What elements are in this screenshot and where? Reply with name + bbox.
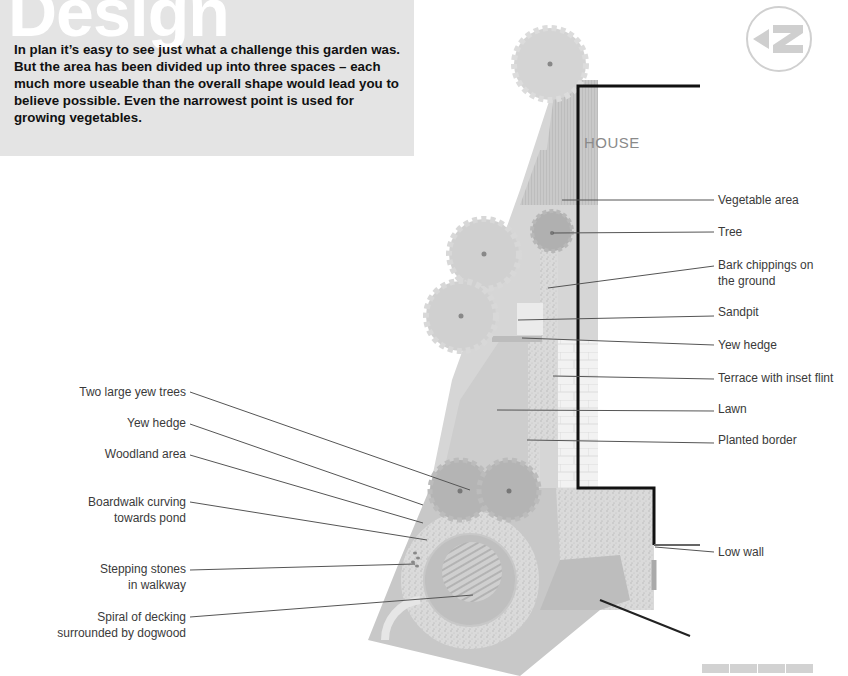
label-stepping-stones-line2: in walkway: [100, 577, 186, 593]
label-boardwalk: Boardwalk curving towards pond: [88, 494, 186, 526]
label-boardwalk-line2: towards pond: [88, 510, 186, 526]
label-stepping-stones: Stepping stones in walkway: [100, 561, 186, 593]
north-arrow-icon: [745, 5, 813, 73]
label-bark-chippings: Bark chippings on the ground: [718, 257, 813, 289]
label-decking: Spiral of decking surrounded by dogwood: [57, 609, 186, 641]
label-planted-border: Planted border: [718, 432, 797, 448]
label-tree: Tree: [718, 224, 742, 240]
label-yew-trees: Two large yew trees: [79, 384, 186, 400]
scale-bar-segment: [730, 664, 757, 673]
label-boardwalk-line1: Boardwalk curving: [88, 494, 186, 510]
house-label: HOUSE: [584, 134, 640, 151]
scale-bar-segment: [786, 664, 813, 673]
label-stepping-stones-line1: Stepping stones: [100, 561, 186, 577]
label-bark-chippings-line1: Bark chippings on: [718, 257, 813, 273]
label-low-wall: Low wall: [718, 544, 764, 560]
tree-top-icon: [514, 28, 586, 100]
scale-bar-segment: [758, 664, 785, 673]
label-decking-line2: surrounded by dogwood: [57, 625, 186, 641]
yew-trees-icon: [430, 460, 539, 520]
label-decking-line1: Spiral of decking: [57, 609, 186, 625]
tree-vegetable-icon: [532, 211, 572, 251]
scale-bar-segment: [702, 664, 729, 673]
label-yew-hedge-right: Yew hedge: [718, 337, 777, 353]
label-woodland: Woodland area: [105, 446, 186, 462]
scale-bar: [702, 664, 813, 673]
label-terrace: Terrace with inset flint: [718, 370, 833, 386]
tree-low-left-icon: [426, 281, 496, 351]
label-sandpit: Sandpit: [718, 304, 759, 320]
label-yew-hedge-left: Yew hedge: [127, 415, 186, 431]
label-bark-chippings-line2: the ground: [718, 273, 813, 289]
label-vegetable-area: Vegetable area: [718, 192, 799, 208]
label-lawn: Lawn: [718, 401, 747, 417]
